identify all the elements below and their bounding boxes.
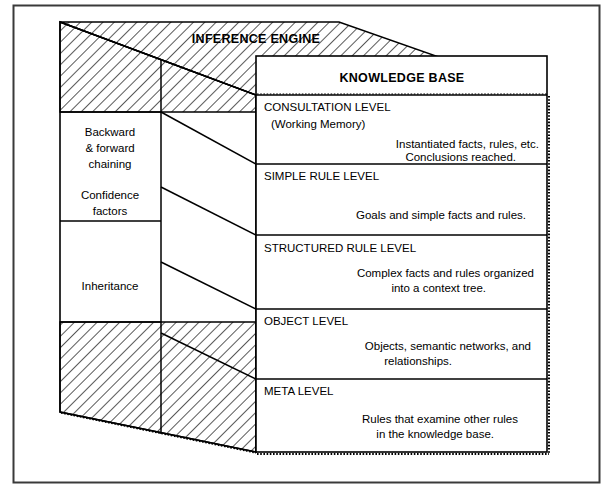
left-face-hatch-bottom: [60, 322, 256, 452]
left-label-line: Backward: [85, 126, 136, 138]
inference-engine-knowledge-base-diagram: INFERENCE ENGINE KNOWLEDGE BASE CONSULTA…: [0, 0, 614, 489]
level-heading: META LEVEL: [264, 385, 334, 397]
level-body-line: Instantiated facts, rules, etc.: [396, 138, 539, 150]
inference-engine-label: INFERENCE ENGINE: [192, 32, 320, 46]
level-heading: STRUCTURED RULE LEVEL: [264, 242, 417, 254]
knowledge-base-label: KNOWLEDGE BASE: [339, 71, 464, 85]
level-body-line: Conclusions reached.: [405, 151, 516, 163]
left-label-backward-forward-chaining: Backward & forward chaining: [85, 126, 136, 170]
left-label-line: factors: [93, 205, 128, 217]
level-body-line: relationships.: [384, 355, 452, 367]
level-body-line: into a context tree.: [391, 282, 486, 294]
level-heading: SIMPLE RULE LEVEL: [264, 170, 380, 182]
depth-divider-1: [161, 112, 256, 164]
level-body-line: Rules that examine other rules: [362, 413, 518, 425]
diagram-canvas: INFERENCE ENGINE KNOWLEDGE BASE CONSULTA…: [0, 0, 614, 489]
level-heading: CONSULTATION LEVEL: [264, 101, 391, 113]
level-heading: OBJECT LEVEL: [264, 315, 349, 327]
depth-divider-3: [161, 262, 256, 309]
level-body-line: Objects, semantic networks, and: [365, 340, 531, 352]
level-body-line: Complex facts and rules organized: [357, 267, 534, 279]
left-label-inheritance: Inheritance: [82, 280, 139, 292]
left-label-confidence-factors: Confidence factors: [81, 189, 139, 217]
left-label-line: chaining: [89, 158, 132, 170]
left-label-line: & forward: [85, 142, 134, 154]
level-body-line: in the knowledge base.: [376, 428, 494, 440]
depth-divider-2: [161, 187, 256, 235]
level-body-line: Goals and simple facts and rules.: [356, 209, 526, 221]
level-subheading: (Working Memory): [271, 118, 366, 130]
left-label-line: Inheritance: [82, 280, 139, 292]
left-label-line: Confidence: [81, 189, 139, 201]
